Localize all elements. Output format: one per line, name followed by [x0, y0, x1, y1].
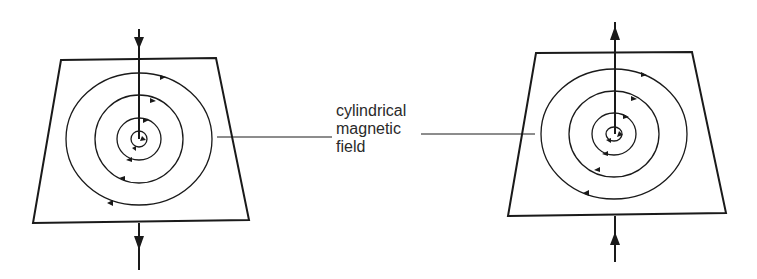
current-up-arrow-icon: [610, 26, 620, 40]
field-label-line-1: cylindrical: [336, 102, 406, 120]
field-label: cylindrical magnetic field: [336, 102, 406, 156]
field-label-line-2: magnetic: [336, 120, 406, 138]
current-down-arrow-icon: [134, 37, 144, 49]
field-label-line-3: field: [336, 138, 406, 156]
right-panel: [421, 22, 726, 262]
current-down-arrow-icon: [134, 236, 144, 250]
current-up-arrow-icon: [610, 232, 620, 245]
left-panel: [33, 29, 332, 270]
